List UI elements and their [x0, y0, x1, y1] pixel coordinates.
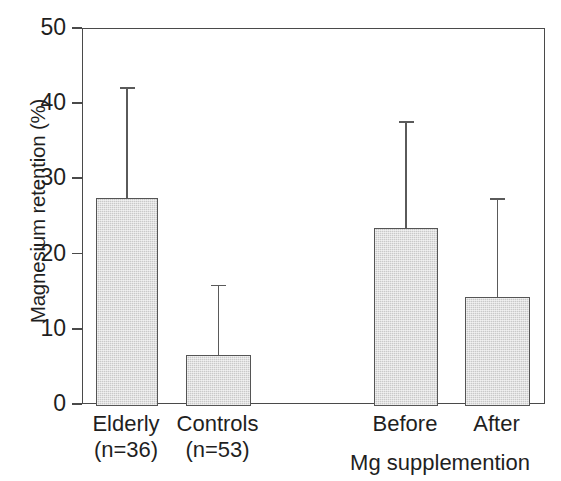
error-bar-line-after	[497, 198, 499, 297]
category-sublabel-text: (n=53)	[148, 437, 288, 463]
y-tick-label: 20	[40, 239, 66, 267]
y-tick-label: 50	[40, 13, 66, 41]
plot-area	[82, 28, 545, 404]
category-label-text: After	[473, 411, 519, 436]
y-tick-label: 10	[40, 314, 66, 342]
category-label-controls: Controls(n=53)	[148, 411, 288, 463]
x-axis-group-label: Mg supplemention	[330, 450, 550, 476]
y-tick-mark	[72, 328, 82, 330]
y-tick-label: 40	[40, 88, 66, 116]
category-label-text: Controls	[177, 411, 259, 436]
y-tick-mark	[72, 403, 82, 405]
error-bar-line-elderly	[126, 87, 128, 198]
chart-figure: Magnesium retention (%) 01020304050 Elde…	[0, 0, 561, 481]
y-tick-mark	[72, 253, 82, 255]
y-tick-label: 30	[40, 163, 66, 191]
error-bar-line-controls	[218, 285, 220, 356]
error-bar-cap-before	[399, 121, 414, 123]
bar-after	[465, 297, 530, 406]
bar-controls	[186, 355, 251, 406]
error-bar-line-before	[405, 121, 407, 229]
error-bar-cap-after	[490, 198, 505, 200]
error-bar-cap-controls	[211, 285, 226, 287]
y-tick-mark	[72, 102, 82, 104]
y-axis-title: Magnesium retention (%)	[26, 21, 50, 401]
error-bar-cap-elderly	[120, 87, 135, 89]
bar-before	[374, 228, 438, 406]
category-label-after: After	[427, 411, 561, 437]
y-tick-mark	[72, 177, 82, 179]
bar-elderly	[96, 198, 158, 406]
y-tick-mark	[72, 27, 82, 29]
